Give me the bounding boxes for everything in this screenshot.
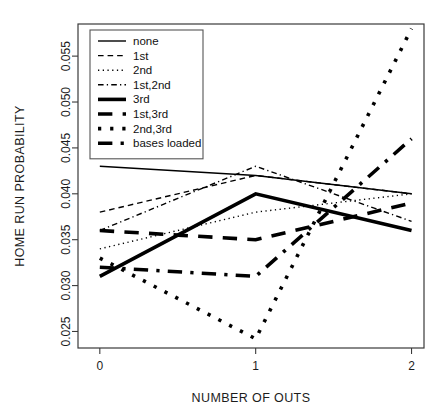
legend-label-2nd-3rd: 2nd,3rd (133, 123, 172, 135)
y-tick-label: 0.055 (59, 41, 73, 71)
x-tick-label: 0 (96, 359, 103, 373)
x-axis-title: NUMBER OF OUTS (192, 391, 311, 405)
legend-label-1st-3rd: 1st,3rd (133, 108, 168, 120)
legend-label-2nd: 2nd (133, 64, 152, 76)
x-tick-label: 1 (252, 359, 259, 373)
y-tick-label: 0.045 (59, 133, 73, 163)
y-tick-label: 0.040 (59, 178, 73, 208)
legend-label-bases-loaded: bases loaded (133, 137, 201, 149)
chart-canvas: 0.0250.0300.0350.0400.0450.0500.055012 n… (0, 0, 447, 420)
legend-label-1st-2nd: 1st,2nd (133, 79, 171, 91)
series-line-bases-loaded (100, 139, 412, 277)
legend-group: none1st2nd1st,2nd3rd1st,3rd2nd,3rdbases … (90, 30, 203, 159)
series-line-none (100, 166, 412, 194)
y-tick-label: 0.030 (59, 270, 73, 300)
x-tick-label: 2 (408, 359, 415, 373)
y-tick-label: 0.025 (59, 316, 73, 346)
legend-label-1st: 1st (133, 50, 149, 62)
y-axis-title: HOME RUN PROBABILITY (13, 105, 27, 267)
legend-label-3rd: 3rd (133, 93, 150, 105)
y-tick-label: 0.050 (59, 87, 73, 117)
y-tick-label: 0.035 (59, 224, 73, 254)
home-run-probability-chart: 0.0250.0300.0350.0400.0450.0500.055012 n… (0, 0, 447, 420)
legend-label-none: none (133, 35, 159, 47)
series-line-3rd (100, 194, 412, 277)
